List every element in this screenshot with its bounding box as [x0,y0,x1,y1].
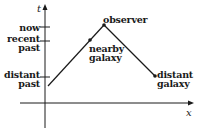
spacetime-diagram [0,0,199,135]
tick-label-now: now [19,23,40,32]
t-axis-label: t [37,4,41,13]
nearby-galaxy-dot [88,38,92,42]
t-axis-arrow-icon [43,4,48,10]
x-axis-label: x [186,108,191,117]
tick-label-recent-past-line2: past [18,43,40,52]
nearby-galaxy-label-line2: galaxy [89,53,122,62]
distant-galaxy-label-line2: galaxy [157,79,190,88]
observer-label: observer [103,15,147,24]
x-axis-arrow-icon [188,101,194,106]
tick-label-distant-past-line2: past [18,79,40,88]
